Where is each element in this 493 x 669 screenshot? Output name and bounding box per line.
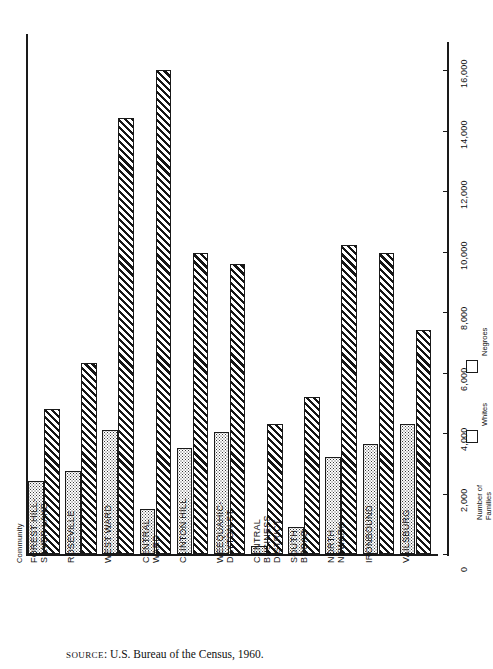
value-axis-tick-label: 8,000 bbox=[459, 306, 469, 330]
value-axis-tick-label: 2,000 bbox=[459, 488, 469, 512]
value-axis-tick bbox=[443, 131, 448, 132]
value-axis-tick-label: 12,000 bbox=[459, 180, 469, 209]
category-label-2: WEST WARD bbox=[103, 505, 113, 563]
value-axis-tick bbox=[443, 70, 448, 71]
value-axis-tick bbox=[443, 373, 448, 374]
category-label-5: WEEQUAHIC- DAYTON ST. bbox=[215, 502, 235, 564]
bar-negroes-1 bbox=[81, 363, 97, 554]
category-label-7: SOUTH BROAD bbox=[289, 529, 309, 563]
value-axis-tick bbox=[443, 252, 448, 253]
bar-negroes-3 bbox=[156, 70, 172, 554]
legend-title: Number of Families bbox=[476, 485, 493, 520]
legend-label-whites: Whites bbox=[480, 403, 489, 426]
category-label-3: CENTRAL WARD bbox=[141, 519, 161, 563]
value-axis-tick-label: 16,000 bbox=[459, 59, 469, 88]
value-axis-tick-label: 14,000 bbox=[459, 120, 469, 149]
value-axis-tick bbox=[443, 191, 448, 192]
source-note: SOURCE: U.S. Bureau of the Census, 1960. bbox=[66, 648, 264, 660]
category-label-9: IRONBOUND bbox=[364, 505, 374, 563]
value-axis-tick bbox=[443, 433, 448, 434]
legend-swatch-negroes bbox=[466, 360, 478, 373]
bar-negroes-2 bbox=[118, 118, 134, 554]
value-axis-tick bbox=[443, 494, 448, 495]
bar-negroes-4 bbox=[193, 253, 209, 554]
category-label-0: FOREST HILL- SILVER LAKE bbox=[29, 499, 49, 563]
value-axis-tick-label: 10,000 bbox=[459, 241, 469, 270]
plot-area bbox=[26, 34, 436, 555]
bar-negroes-10 bbox=[416, 330, 432, 554]
category-label-8: NORTH NEWARK bbox=[326, 522, 346, 563]
category-label-10: VAILSBURG bbox=[401, 509, 411, 563]
bar-negroes-9 bbox=[379, 253, 395, 554]
legend-label-negroes: Negroes bbox=[480, 328, 489, 356]
value-axis-tick bbox=[443, 312, 448, 313]
category-axis-caption: Community bbox=[16, 523, 24, 563]
category-label-4: CLINTON HILL bbox=[178, 499, 188, 563]
legend-swatch-whites bbox=[466, 430, 478, 443]
value-axis-tick bbox=[443, 554, 448, 555]
value-axis-line bbox=[447, 42, 449, 556]
category-label-6: CENTRAL BUSINESS DISTRICT bbox=[252, 515, 282, 563]
category-label-1: ROSEVILLE bbox=[66, 510, 76, 563]
source-text: : U.S. Bureau of the Census, 1960. bbox=[104, 648, 264, 660]
bar-negroes-8 bbox=[341, 245, 357, 554]
source-prefix: SOURCE bbox=[66, 650, 104, 660]
value-axis-tick-label: 0 bbox=[459, 567, 469, 572]
